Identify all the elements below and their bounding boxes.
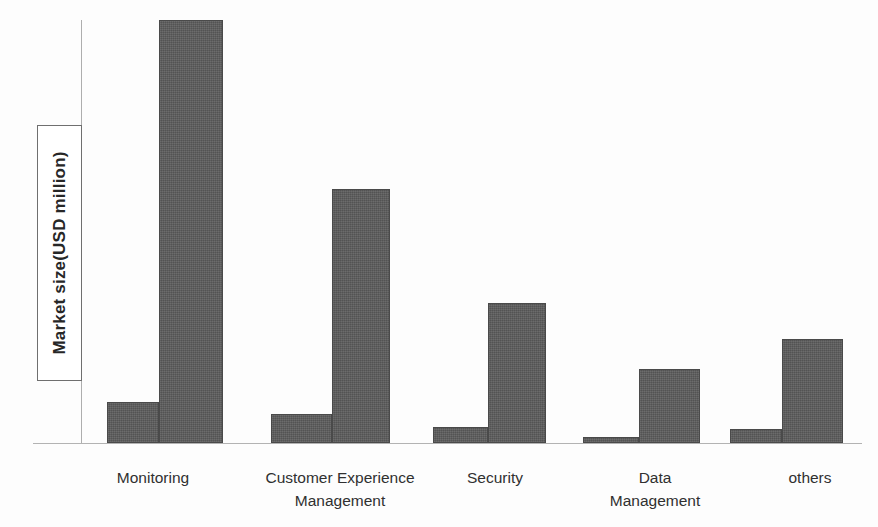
bar-monitoring-small xyxy=(107,402,159,443)
y-axis-title-label: Market size(USD million) xyxy=(50,151,70,354)
x-axis-label-customer-experience-management: Customer Experience Management xyxy=(240,466,440,512)
bar-datamgmt-large xyxy=(639,369,700,443)
plot-area xyxy=(81,20,862,443)
bar-datamgmt-small xyxy=(583,437,639,443)
bar-chart: Market size(USD million) MonitoringCusto… xyxy=(0,0,878,527)
x-axis-label-security: Security xyxy=(440,466,550,489)
bar-cem-large xyxy=(332,189,390,443)
x-axis-label-monitoring: Monitoring xyxy=(98,466,208,489)
bar-security-large xyxy=(488,303,546,443)
bar-others-large xyxy=(782,339,843,443)
bar-cem-small xyxy=(271,414,332,443)
bar-monitoring-large xyxy=(159,20,223,443)
y-axis-title-box: Market size(USD million) xyxy=(37,125,82,381)
x-axis-label-data-management: Data Management xyxy=(580,466,730,512)
bar-security-small xyxy=(433,427,488,443)
x-axis-label-others: others xyxy=(760,466,860,489)
x-axis-line xyxy=(33,443,862,444)
bar-others-small xyxy=(730,429,782,443)
